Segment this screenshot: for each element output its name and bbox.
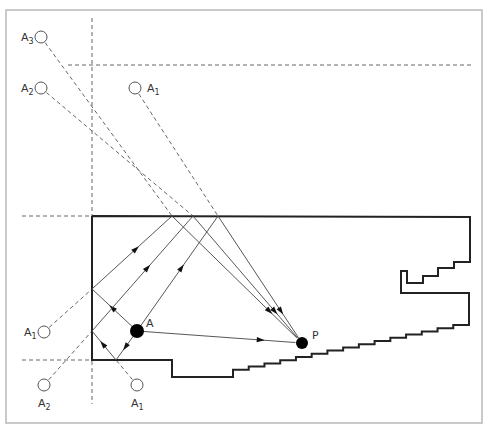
image-source-circle [35, 31, 47, 43]
image-source-label: A2 [38, 397, 51, 412]
image-source-A2: A2 [38, 379, 51, 412]
ray-path-A3 [92, 216, 172, 289]
image-sources: A3A2A1A1A2A1 [21, 31, 160, 412]
source-point [130, 324, 144, 338]
image-source-A1: A1 [129, 82, 160, 97]
source-label: A [146, 317, 154, 330]
ray-direct [137, 331, 295, 343]
image-source-circle [38, 379, 50, 391]
image-source-diagram: A3A2A1A1A2A1 AP [0, 0, 487, 432]
image-source-label: A1 [131, 397, 144, 412]
image-source-A1: A1 [24, 326, 50, 341]
image-source-A2: A2 [21, 82, 47, 97]
image-source-line [41, 37, 172, 216]
room-section-outline [92, 216, 470, 377]
image-source-circle [38, 326, 50, 338]
image-source-line [135, 88, 218, 216]
image-source-line [41, 88, 193, 216]
image-source-label: A3 [21, 31, 34, 46]
image-source-circle [129, 82, 141, 94]
image-source-line [44, 289, 92, 332]
ray-path-A2 [193, 216, 298, 338]
receiver-label: P [312, 329, 319, 342]
image-source-circle [131, 379, 143, 391]
arrow-icon [121, 342, 130, 352]
image-source-line [44, 331, 92, 385]
ray-path-A1 [218, 216, 299, 338]
dashed-guide-lines [22, 18, 472, 404]
receiver-point [296, 337, 308, 349]
image-source-label: A2 [21, 82, 34, 97]
ray-path-A3 [172, 216, 297, 338]
image-source-A1: A1 [131, 379, 144, 412]
arrow-icon [257, 337, 265, 343]
image-source-label: A1 [24, 326, 37, 341]
image-source-label: A1 [147, 82, 160, 97]
reflection-rays [92, 216, 299, 360]
arrow-icon [177, 263, 186, 273]
image-source-circle [35, 82, 47, 94]
image-source-A3: A3 [21, 31, 47, 46]
